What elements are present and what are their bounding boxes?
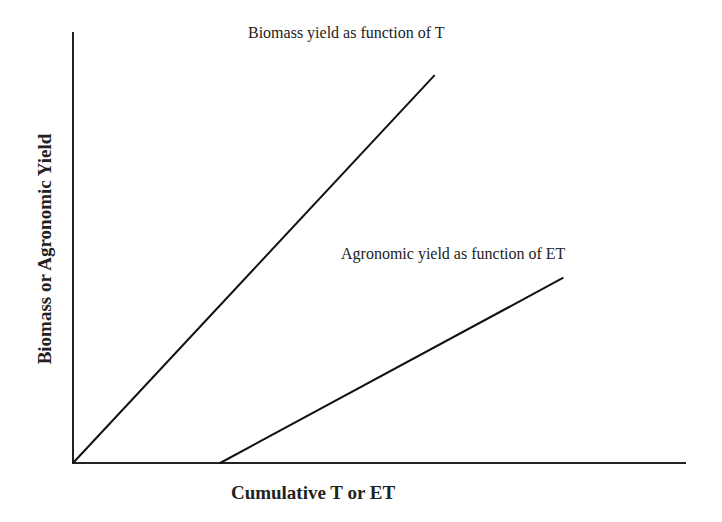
x-axis-label: Cumulative T or ET <box>231 482 395 503</box>
y-axis-label: Biomass or Agronomic Yield <box>34 133 55 364</box>
biomass-yield-line <box>73 75 435 463</box>
agronomic-annotation: Agronomic yield as function of ET <box>341 245 566 263</box>
agronomic-yield-line <box>220 278 563 463</box>
biomass-annotation: Biomass yield as function of T <box>248 24 445 42</box>
chart: Biomass yield as function of T Agronomic… <box>0 0 722 522</box>
